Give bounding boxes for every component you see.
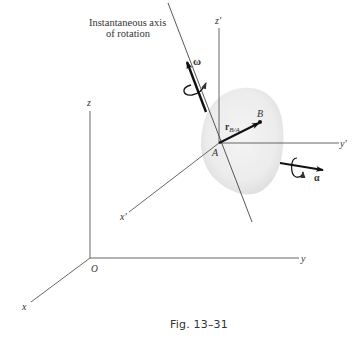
point-b-dot <box>258 120 262 124</box>
callout-line1: Instantaneous axis <box>89 17 166 28</box>
label-point-a: A <box>211 147 219 158</box>
label-x: x <box>21 301 27 312</box>
figure-caption: Fig. 13–31 <box>0 318 362 331</box>
x-axis <box>31 258 90 302</box>
label-origin-o: O <box>91 264 98 274</box>
label-y: y <box>300 253 306 264</box>
x-prime-axis <box>129 143 219 212</box>
alpha-rotation-curl-icon <box>292 158 303 177</box>
label-z: z <box>86 97 91 108</box>
callout-line2: of rotation <box>106 28 151 39</box>
alpha-vector <box>280 163 323 170</box>
label-omega: ω <box>193 55 201 67</box>
rigid-body-rotation-diagram: Instantaneous axis of rotation z y x O z… <box>0 0 362 338</box>
label-y-prime: y' <box>339 138 347 149</box>
label-x-prime: x' <box>119 211 127 222</box>
label-point-b: B <box>257 108 263 119</box>
label-z-prime: z' <box>214 15 222 26</box>
label-r-subscript: B/A <box>229 126 240 134</box>
label-alpha: α <box>314 172 320 183</box>
rigid-body <box>201 88 283 195</box>
caption-text: Fig. 13–31 <box>170 318 228 331</box>
